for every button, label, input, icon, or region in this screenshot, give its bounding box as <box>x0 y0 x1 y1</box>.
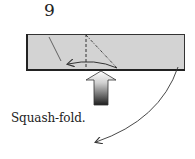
instruction-caption: Squash-fold. <box>11 110 86 126</box>
origami-diagram <box>0 0 195 159</box>
push-arrow <box>86 71 116 105</box>
